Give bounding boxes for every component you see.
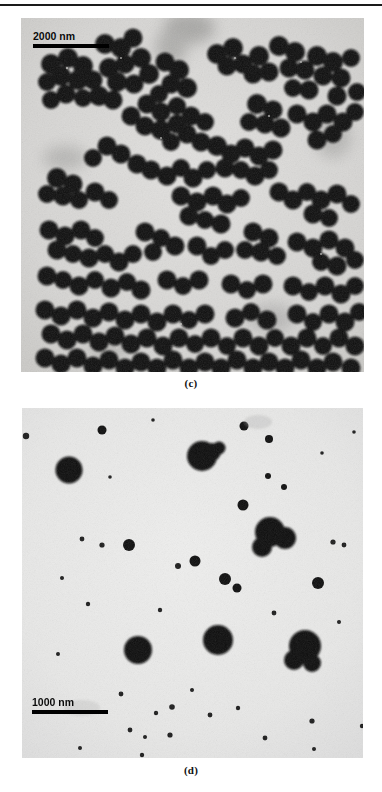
- panel-c-particles: [21, 18, 364, 372]
- scale-bar-line-d: [32, 710, 108, 714]
- scale-bar-label-c: 2000 nm: [33, 30, 109, 42]
- scale-bar-label-d: 1000 nm: [32, 696, 108, 708]
- scale-bar-panel-d: 1000 nm: [32, 696, 108, 714]
- scale-bar-panel-c: 2000 nm: [33, 30, 109, 48]
- page-top-rule: [0, 4, 382, 6]
- panel-caption-c: (c): [0, 377, 382, 389]
- micrograph-panel-c: 2000 nm: [21, 18, 364, 372]
- figure-page: 2000 nm (c): [0, 0, 382, 792]
- panel-caption-d: (d): [0, 764, 382, 776]
- scale-bar-line-c: [33, 44, 109, 48]
- micrograph-panel-d: 1000 nm: [22, 408, 363, 758]
